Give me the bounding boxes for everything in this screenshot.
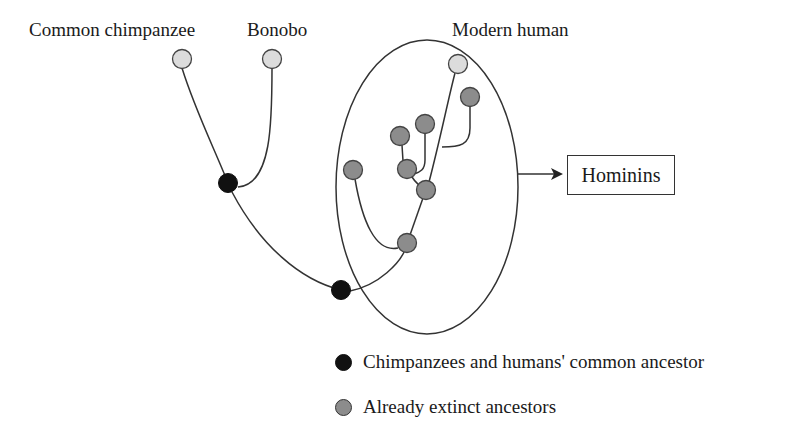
node-extinct-ancestor [391, 127, 410, 146]
node-extinct-ancestor [398, 160, 417, 179]
branch-main-1 [410, 198, 423, 235]
legend-label: Already extinct ancestors [363, 396, 556, 418]
grey-dot-icon [335, 399, 352, 416]
black-dot-icon [335, 354, 352, 371]
branch-bonobo [238, 68, 272, 187]
node-common-chimpanzee [173, 50, 192, 69]
branch-353-407 [355, 179, 398, 249]
legend-item-common-ancestor: Chimpanzees and humans' common ancestor [335, 351, 704, 373]
label-modern-human: Modern human [452, 20, 569, 39]
node-common-ancestor-pan [219, 174, 238, 193]
node-extinct-ancestor [398, 234, 417, 253]
node-extinct-ancestor [344, 161, 363, 180]
node-extinct-ancestor [416, 115, 435, 134]
legend-item-extinct-ancestor: Already extinct ancestors [335, 396, 556, 418]
legend-label: Chimpanzees and humans' common ancestor [363, 351, 704, 373]
branch-pan-to-root [232, 192, 341, 290]
hominins-box: Hominins [567, 155, 675, 195]
node-extinct-ancestor [417, 181, 436, 200]
label-bonobo: Bonobo [247, 20, 307, 39]
node-bonobo [263, 50, 282, 69]
branch-400-407 [402, 145, 403, 161]
node-common-ancestor-root [332, 281, 351, 300]
node-modern-human [449, 55, 468, 74]
label-common-chimpanzee: Common chimpanzee [29, 20, 195, 39]
node-extinct-ancestor [461, 88, 480, 107]
branch-chimp [182, 68, 228, 183]
